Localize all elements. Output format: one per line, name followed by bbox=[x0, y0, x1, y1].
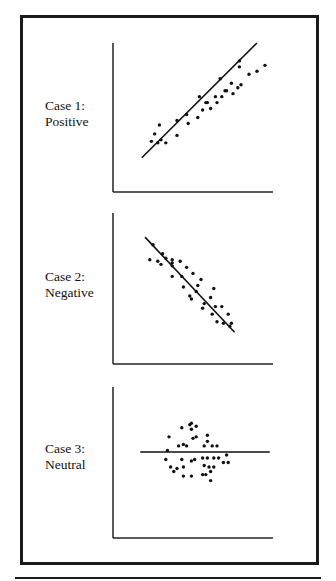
case-2-data-point bbox=[182, 285, 185, 288]
case-2-data-point bbox=[211, 312, 214, 315]
case-2-data-point bbox=[195, 290, 198, 293]
case-3-data-point bbox=[193, 458, 196, 461]
case-3-data-point bbox=[209, 470, 212, 473]
case-3-data-point bbox=[169, 465, 172, 468]
case-1-data-point bbox=[239, 83, 242, 86]
case-1-data-point bbox=[187, 122, 190, 125]
case-2-trend-line bbox=[145, 237, 235, 332]
case-3-data-point bbox=[195, 435, 198, 438]
case-2-data-point bbox=[148, 258, 151, 261]
case-1-data-point bbox=[225, 89, 228, 92]
case-3-data-point bbox=[201, 473, 204, 476]
case-3-data-point bbox=[212, 456, 215, 459]
case-2-data-point bbox=[199, 278, 202, 281]
case-3-data-point bbox=[207, 465, 210, 468]
case-3-data-point bbox=[191, 437, 194, 440]
case-1-data-point bbox=[238, 65, 241, 68]
case-3-data-point bbox=[217, 456, 220, 459]
case-3-data-point bbox=[203, 444, 206, 447]
case-2-data-point bbox=[171, 264, 174, 267]
case-3-data-point bbox=[185, 444, 188, 447]
case-1-data-point bbox=[231, 92, 234, 95]
case-2-data-point bbox=[171, 261, 174, 264]
case-2-data-point bbox=[227, 312, 230, 315]
case-3-data-point bbox=[177, 444, 180, 447]
case-3-data-point bbox=[201, 456, 204, 459]
case-1-data-point bbox=[230, 82, 233, 85]
case-1-data-point bbox=[247, 73, 250, 76]
case-3-data-point bbox=[180, 458, 183, 461]
case-2-data-point bbox=[196, 284, 199, 287]
case-3-data-point bbox=[167, 435, 170, 438]
case-2-data-point bbox=[220, 305, 223, 308]
case-3-data-point bbox=[204, 473, 207, 476]
case-1-data-point bbox=[153, 132, 156, 135]
case-1-data-point bbox=[236, 86, 239, 89]
case-1-data-point bbox=[175, 134, 178, 137]
case-2-data-point bbox=[190, 297, 193, 300]
case-1-data-point bbox=[156, 141, 159, 144]
case-1-data-point bbox=[219, 77, 222, 80]
case-1-data-point bbox=[204, 101, 207, 104]
case-2-data-point bbox=[188, 294, 191, 297]
case-1-data-point bbox=[158, 123, 161, 126]
case-1-data-point bbox=[201, 108, 204, 111]
case-3-data-point bbox=[222, 461, 225, 464]
case-2-data-point bbox=[151, 243, 154, 246]
case-3-data-point bbox=[190, 474, 193, 477]
case-2-data-point bbox=[215, 320, 218, 323]
case-3-data-point bbox=[164, 458, 167, 461]
case-3-data-point bbox=[182, 443, 185, 446]
case-2-data-point bbox=[191, 272, 194, 275]
case-3-data-point bbox=[215, 444, 218, 447]
case-1-data-point bbox=[214, 95, 217, 98]
case-1-data-point bbox=[255, 70, 258, 73]
case-1-data-point bbox=[196, 116, 199, 119]
case-3-data-point bbox=[172, 470, 175, 473]
case-3-data-point bbox=[206, 440, 209, 443]
case-2-data-point bbox=[156, 260, 159, 263]
case-3-data-point bbox=[190, 428, 193, 431]
case-3-data-point bbox=[227, 461, 230, 464]
case-2-data-point bbox=[179, 260, 182, 263]
case-3-data-point bbox=[166, 449, 169, 452]
case-2-data-point bbox=[222, 322, 225, 325]
case-1-data-point bbox=[238, 59, 241, 62]
case-2-data-point bbox=[164, 257, 167, 260]
case-1-data-point bbox=[150, 140, 153, 143]
case-3-data-point bbox=[175, 467, 178, 470]
case-2-data-point bbox=[161, 252, 164, 255]
case-3-data-point bbox=[195, 425, 198, 428]
case-2-data-point bbox=[180, 275, 183, 278]
case-3-data-point bbox=[209, 479, 212, 482]
case-1-data-point bbox=[164, 141, 167, 144]
case-1-data-point bbox=[175, 119, 178, 122]
case-3-data-point bbox=[211, 444, 214, 447]
case-2-data-point bbox=[228, 325, 231, 328]
case-1-data-point bbox=[185, 113, 188, 116]
case-3-data-point bbox=[190, 459, 193, 462]
case-2-data-point bbox=[171, 275, 174, 278]
case-3-data-point bbox=[206, 456, 209, 459]
case-3-data-point bbox=[182, 474, 185, 477]
case-2-data-point bbox=[212, 287, 215, 290]
case-3-data-point bbox=[190, 422, 193, 425]
case-2-data-point bbox=[209, 296, 212, 299]
scatter-plots bbox=[0, 0, 336, 581]
case-1-data-point bbox=[209, 107, 212, 110]
case-2-data-point bbox=[171, 258, 174, 261]
case-1-data-point bbox=[215, 101, 218, 104]
case-2-data-point bbox=[214, 305, 217, 308]
case-1-data-point bbox=[220, 95, 223, 98]
case-2-data-point bbox=[201, 306, 204, 309]
case-3-data-point bbox=[203, 464, 206, 467]
case-1-data-point bbox=[198, 95, 201, 98]
case-2-data-point bbox=[159, 263, 162, 266]
case-3-data-point bbox=[182, 465, 185, 468]
case-2-data-point bbox=[230, 322, 233, 325]
case-1-data-point bbox=[263, 64, 266, 67]
case-3-data-point bbox=[206, 434, 209, 437]
case-3-data-point bbox=[212, 465, 215, 468]
case-1-data-point bbox=[159, 138, 162, 141]
case-3-data-point bbox=[225, 453, 228, 456]
